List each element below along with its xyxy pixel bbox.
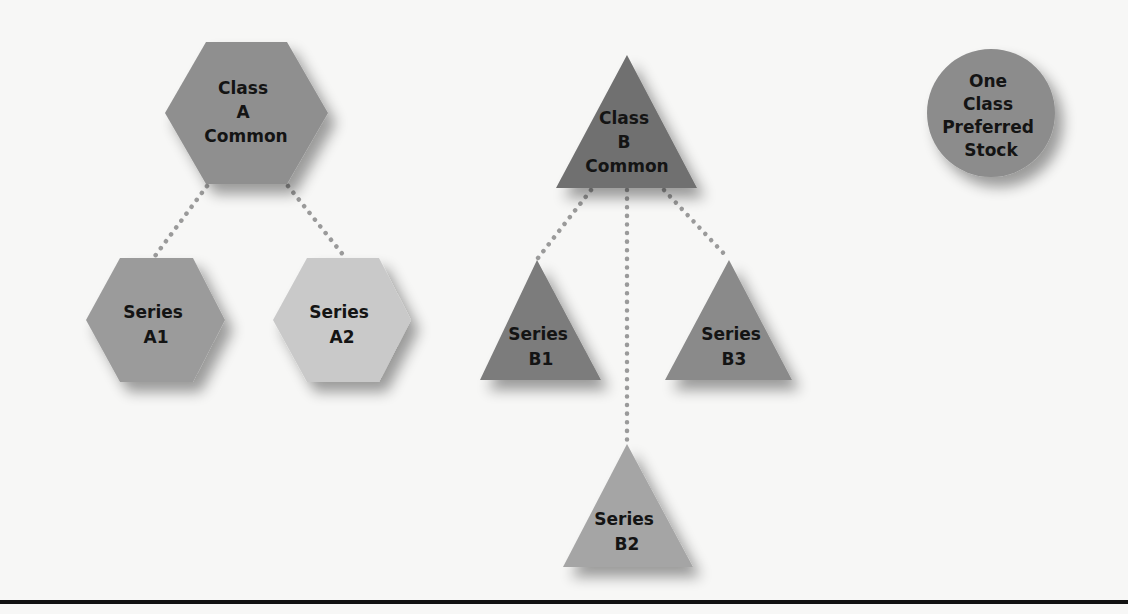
node-class-a-common: Class A Common: [165, 42, 328, 184]
connectors: [155, 186, 728, 442]
node-series-a2: Series A2: [273, 258, 411, 382]
node-series-b2: Series B2: [563, 444, 693, 567]
edge-class-b-to-series-b3: [664, 190, 728, 258]
edge-class-a-to-series-a2: [288, 186, 344, 256]
bottom-rule: [0, 600, 1128, 604]
edge-class-a-to-series-a1: [155, 186, 207, 256]
edge-class-b-to-series-b1: [538, 190, 591, 258]
node-series-b3: Series B3: [665, 260, 792, 380]
stock-class-diagram: Class A Common Class B Common One Class …: [0, 0, 1128, 614]
node-preferred-stock: One Class Preferred Stock: [927, 49, 1055, 177]
node-series-b1: Series B1: [480, 260, 601, 380]
node-class-b-common: Class B Common: [556, 55, 697, 188]
node-series-a1: Series A1: [86, 258, 225, 382]
